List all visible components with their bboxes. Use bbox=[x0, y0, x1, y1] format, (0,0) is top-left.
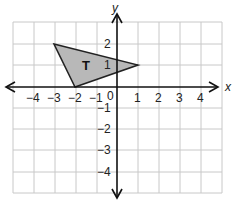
x-axis-label: x bbox=[224, 80, 232, 94]
x-tick-label: 4 bbox=[197, 91, 204, 105]
x-tick-label: 3 bbox=[176, 91, 183, 105]
y-tick-label: −2 bbox=[97, 122, 111, 136]
y-tick-label: −3 bbox=[97, 143, 111, 157]
y-tick-label: 2 bbox=[104, 37, 111, 51]
x-tick-label: 2 bbox=[155, 91, 162, 105]
y-axis-label: y bbox=[111, 1, 119, 15]
coordinate-plane: y x −4 −3 −2 −1 0 1 2 3 4 2 1 −1 −2 −3 −… bbox=[0, 0, 237, 203]
x-tick-label: 1 bbox=[134, 91, 141, 105]
triangle-t bbox=[54, 44, 138, 87]
x-tick-label: −4 bbox=[26, 91, 40, 105]
x-tick-label: −2 bbox=[68, 91, 82, 105]
x-tick-label: −3 bbox=[47, 91, 61, 105]
y-tick-label: −4 bbox=[97, 165, 111, 179]
shape-label-t: T bbox=[82, 58, 90, 73]
y-tick-label: −1 bbox=[97, 101, 111, 115]
y-tick-label: 1 bbox=[104, 58, 111, 72]
y-axis bbox=[112, 14, 122, 198]
